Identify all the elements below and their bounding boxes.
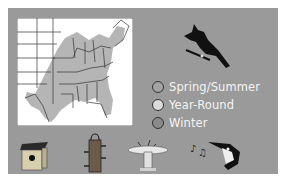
year-round-swatch	[152, 99, 164, 111]
birdhouse-icon	[18, 136, 52, 172]
range-panel: Spring/Summer Year-Round Winter ♪	[8, 8, 278, 174]
spring-summer-swatch	[152, 81, 164, 93]
legend: Spring/Summer Year-Round Winter	[152, 78, 260, 132]
us-map-graphic	[17, 18, 133, 126]
range-map	[17, 18, 133, 126]
legend-item-year-round: Year-Round	[152, 96, 260, 114]
winter-swatch	[152, 117, 164, 129]
legend-item-winter: Winter	[152, 114, 260, 132]
tube-feeder-icon	[82, 132, 108, 174]
legend-label: Winter	[169, 116, 208, 130]
singing-bird-icon: ♪ ♫	[190, 138, 246, 172]
cardinal-icon	[178, 22, 234, 72]
svg-text:♪: ♪	[190, 143, 196, 154]
legend-label: Year-Round	[169, 98, 234, 112]
birdbath-icon	[126, 138, 170, 172]
svg-text:♫: ♫	[198, 147, 207, 158]
legend-item-spring-summer: Spring/Summer	[152, 78, 260, 96]
legend-label: Spring/Summer	[169, 80, 260, 94]
